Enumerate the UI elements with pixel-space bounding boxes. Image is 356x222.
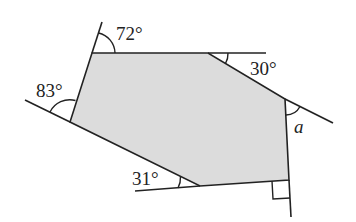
right-angle-marker bbox=[272, 181, 290, 199]
angle-arc-72 bbox=[99, 33, 116, 53]
hexagon-diagram: 72° 30° a 31° 83° bbox=[0, 0, 356, 222]
angle-arc-31 bbox=[178, 177, 181, 189]
label-83: 83° bbox=[36, 80, 63, 101]
extension-left bbox=[25, 100, 70, 122]
angle-arc-30 bbox=[226, 53, 229, 64]
angle-arc-a bbox=[286, 107, 300, 116]
angle-arc-83 bbox=[50, 100, 76, 112]
extension-top-left bbox=[92, 22, 102, 53]
label-31: 31° bbox=[132, 168, 159, 189]
label-72: 72° bbox=[116, 23, 143, 44]
extension-right bbox=[285, 99, 333, 123]
label-30: 30° bbox=[250, 58, 277, 79]
label-a: a bbox=[294, 116, 304, 137]
